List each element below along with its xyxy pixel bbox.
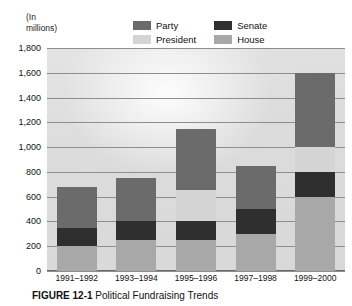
x-axis-label-4: 1997–1998 — [226, 273, 286, 283]
legend-item-senate: Senate — [214, 20, 267, 31]
legend-swatch-senate — [214, 21, 232, 30]
legend-label-senate: Senate — [237, 20, 267, 31]
bar-segment-house[interactable] — [176, 240, 216, 271]
y-axis-tick-1000: 1,000 — [18, 142, 41, 152]
bar-segment-party[interactable] — [236, 166, 276, 209]
bar-stack[interactable] — [57, 187, 97, 271]
bar-segment-senate[interactable] — [236, 209, 276, 234]
y-axis-tick-1200: 1,200 — [18, 117, 41, 127]
bar-segment-party[interactable] — [116, 178, 156, 221]
y-axis-labels: 1,8001,6001,4001,2001,0008006004002000 — [0, 42, 44, 276]
y-axis-tick-600: 600 — [26, 192, 41, 202]
bar-segment-house[interactable] — [295, 197, 335, 271]
bar-segment-senate[interactable] — [295, 172, 335, 197]
x-axis-label-1: 1991–1992 — [47, 273, 107, 283]
bar-segment-senate[interactable] — [116, 221, 156, 240]
bar-segment-senate[interactable] — [176, 221, 216, 240]
x-axis-labels: 1991–19921993–19941995–19961997–19981999… — [47, 273, 345, 283]
bar-segment-house[interactable] — [57, 246, 97, 271]
legend-label-president: President — [156, 34, 196, 45]
legend-swatch-party — [133, 21, 151, 30]
bar-segment-party[interactable] — [295, 73, 335, 147]
bar-segment-house[interactable] — [116, 240, 156, 271]
legend-item-party: Party — [133, 20, 196, 31]
bar-segment-president[interactable] — [295, 147, 335, 172]
figure-container: (In millions) Party Senate President Hou… — [0, 0, 352, 306]
x-axis-label-2: 1993–1994 — [107, 273, 167, 283]
y-axis-tick-0: 0 — [36, 266, 41, 276]
legend-item-house: House — [214, 34, 267, 45]
bar-group-2 — [107, 48, 167, 271]
bar-group-4 — [226, 48, 286, 271]
bar-segment-house[interactable] — [236, 234, 276, 271]
bar-stack[interactable] — [176, 129, 216, 271]
figure-caption: FIGURE 12-1 Political Fundraising Trends — [32, 290, 348, 301]
gridline-0 — [47, 271, 345, 272]
bar-segment-party[interactable] — [176, 129, 216, 191]
x-axis-label-3: 1995–1996 — [166, 273, 226, 283]
y-axis-tick-1800: 1,800 — [18, 43, 41, 53]
legend-swatch-president — [133, 35, 151, 44]
bar-group-5 — [285, 48, 345, 271]
x-axis-label-5: 1999–2000 — [285, 273, 345, 283]
figure-caption-number: FIGURE 12-1 — [32, 290, 93, 301]
y-axis-tick-400: 400 — [26, 216, 41, 226]
figure-caption-text: Political Fundraising Trends — [95, 290, 218, 301]
y-axis-tick-800: 800 — [26, 167, 41, 177]
bar-stack[interactable] — [295, 73, 335, 271]
bar-segment-senate[interactable] — [57, 228, 97, 247]
bar-group-3 — [166, 48, 226, 271]
chart-legend: Party Senate President House — [133, 20, 267, 45]
bar-segment-party[interactable] — [57, 187, 97, 227]
y-axis-tick-200: 200 — [26, 241, 41, 251]
y-axis-tick-1400: 1,400 — [18, 93, 41, 103]
bar-stack[interactable] — [236, 166, 276, 271]
legend-swatch-house — [214, 35, 232, 44]
legend-label-party: Party — [156, 20, 178, 31]
axis-units-note: (In millions) — [26, 12, 57, 33]
bar-segment-president[interactable] — [176, 190, 216, 221]
bar-series-area — [47, 48, 345, 271]
legend-item-president: President — [133, 34, 196, 45]
legend-label-house: House — [237, 34, 264, 45]
bar-stack[interactable] — [116, 178, 156, 271]
y-axis-tick-1600: 1,600 — [18, 68, 41, 78]
bar-group-1 — [47, 48, 107, 271]
